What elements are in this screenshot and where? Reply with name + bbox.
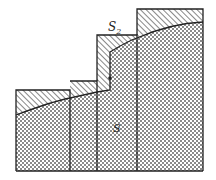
label-s2: S2: [108, 20, 121, 36]
area-approximation-diagram: S2 S: [0, 0, 216, 180]
marker-point: [108, 76, 112, 80]
label-s: S: [113, 122, 121, 135]
